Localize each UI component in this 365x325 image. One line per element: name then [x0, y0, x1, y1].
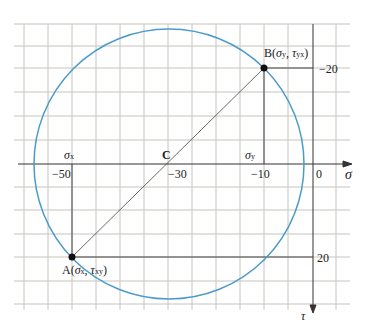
sigma-tick-minus50: −50 — [52, 168, 71, 180]
point-b — [261, 65, 268, 72]
point-a-label: A(σx, τxy) — [62, 264, 107, 276]
tau-tick-bottom: 20 — [317, 252, 329, 264]
tau-axis-arrow-icon — [310, 305, 316, 313]
center-label: C — [162, 149, 171, 161]
sigma-y-label: σy — [245, 149, 255, 161]
tau-axis-label: τ — [301, 310, 305, 322]
point-a — [69, 254, 76, 261]
origin-label: 0 — [316, 168, 322, 180]
sigma-tick-minus30: −30 — [168, 168, 187, 180]
mohr-circle-diagram — [0, 0, 365, 325]
sigma-tick-minus10: −10 — [251, 168, 270, 180]
tau-tick-top: −20 — [319, 63, 338, 75]
sigma-axis-label: σ — [345, 168, 352, 182]
point-b-label: B(σy, τyx) — [264, 47, 308, 59]
sigma-x-label: σx — [64, 149, 74, 161]
